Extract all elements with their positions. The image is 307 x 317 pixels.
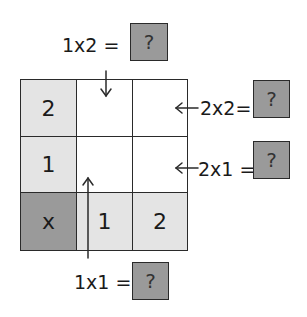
- answer-box-1x2[interactable]: ?: [130, 23, 168, 61]
- question-1x2-label: 1x2 =: [62, 34, 119, 56]
- answer-box-2x1[interactable]: ?: [253, 141, 290, 179]
- question-1x1-label: 1x1 =: [74, 271, 131, 293]
- question-2x2-label: 2x2=: [200, 97, 251, 119]
- answer-box-1x1[interactable]: ?: [132, 262, 169, 300]
- answer-box-2x2[interactable]: ?: [253, 80, 290, 118]
- question-2x1-label: 2x1 =: [198, 158, 255, 180]
